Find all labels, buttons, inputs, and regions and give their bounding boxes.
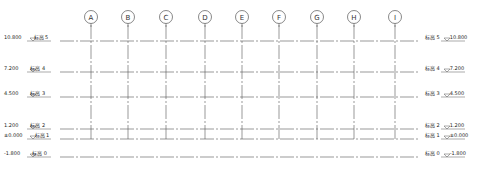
level-name: 标高 4 xyxy=(425,65,440,71)
elevation-value: -1.800 xyxy=(450,150,466,156)
level-name: 标高 1 xyxy=(35,132,50,138)
level-name: 标高 0 xyxy=(32,150,47,156)
level-label-left: 1.200标高 2 xyxy=(4,123,45,128)
elevation-drawing: ABCDEFGHI 10.800标高 5标高 510.8007.200标高 4标… xyxy=(0,0,481,179)
level-label-left: 7.200标高 4 xyxy=(4,66,45,71)
level-label-left: ±0.000标高 1 xyxy=(4,133,49,138)
level-name: 标高 2 xyxy=(30,122,45,128)
elevation-value: -1.800 xyxy=(4,150,20,156)
level-label-left: -1.800标高 0 xyxy=(4,151,47,156)
elevation-value: 4.500 xyxy=(450,90,464,96)
grid-axis-label: E xyxy=(240,14,244,22)
elevation-value: 10.800 xyxy=(450,34,468,40)
grid-axis-label: H xyxy=(351,14,356,22)
elevation-value: 1.200 xyxy=(4,122,18,128)
level-label-right: 标高 21.200 xyxy=(425,123,464,128)
level-name: 标高 0 xyxy=(425,150,440,156)
grid-axis-label: F xyxy=(277,14,281,22)
elevation-value: 4.500 xyxy=(4,90,18,96)
grid-axis-label: B xyxy=(126,14,131,22)
grid-axis-label: G xyxy=(314,14,319,22)
level-name: 标高 5 xyxy=(34,34,49,40)
level-label-right: 标高 34.500 xyxy=(425,91,464,96)
elevation-value: 1.200 xyxy=(450,122,464,128)
level-name: 标高 4 xyxy=(30,65,45,71)
grid-axis-label: C xyxy=(164,14,169,22)
level-name: 标高 2 xyxy=(425,122,440,128)
grid-lines-svg: ABCDEFGHI xyxy=(0,0,481,179)
level-name: 标高 1 xyxy=(425,132,440,138)
level-name: 标高 3 xyxy=(425,90,440,96)
level-label-left: 10.800标高 5 xyxy=(4,35,48,40)
level-label-right: 标高 0-1.800 xyxy=(425,151,466,156)
grid-axis-label: D xyxy=(202,14,207,22)
grid-axis-label: I xyxy=(394,14,396,22)
grid-axis-label: A xyxy=(89,14,94,22)
elevation-value: 7.200 xyxy=(4,65,18,71)
elevation-value: ±0.000 xyxy=(4,132,23,138)
level-name: 标高 5 xyxy=(425,34,440,40)
elevation-value: 10.800 xyxy=(4,34,22,40)
level-label-right: 标高 1±0.000 xyxy=(425,133,468,138)
level-label-right: 标高 47.200 xyxy=(425,66,464,71)
level-label-left: 4.500标高 3 xyxy=(4,91,45,96)
elevation-value: ±0.000 xyxy=(450,132,469,138)
level-label-right: 标高 510.800 xyxy=(425,35,467,40)
elevation-value: 7.200 xyxy=(450,65,464,71)
level-name: 标高 3 xyxy=(30,90,45,96)
